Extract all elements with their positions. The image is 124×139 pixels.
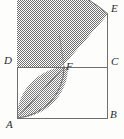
vertex-dot-F [63, 66, 65, 68]
vertex-label-F: F [66, 61, 73, 72]
figure-canvas [0, 0, 124, 139]
vertex-label-C: C [111, 56, 118, 67]
vertex-label-A: A [6, 119, 13, 130]
geometry-figure: A B C D E F [0, 0, 124, 139]
vertex-label-B: B [110, 109, 117, 120]
vertex-label-D: D [4, 55, 12, 66]
vertex-dots [63, 66, 65, 68]
vertex-label-E: E [111, 3, 118, 14]
